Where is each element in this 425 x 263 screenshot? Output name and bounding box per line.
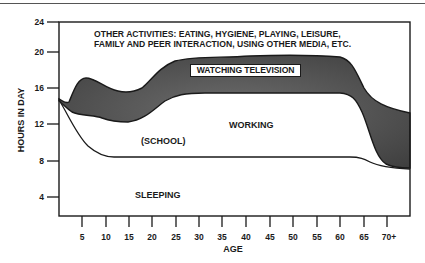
x-tick-65: 65 <box>359 232 369 242</box>
y-tick-24: 24 <box>35 17 45 27</box>
other-activities-line1: OTHER ACTIVITIES: EATING, HYGIENE, PLAYI… <box>94 29 341 39</box>
y-axis-tick-labels: 24 20 16 12 8 4 <box>35 17 45 202</box>
x-tick-60: 60 <box>335 232 345 242</box>
sleeping-label: SLEEPING <box>135 190 181 200</box>
x-tick-55: 55 <box>312 232 322 242</box>
x-tick-35: 35 <box>217 232 227 242</box>
x-axis-ticks <box>82 216 387 227</box>
y-tick-8: 8 <box>39 156 44 166</box>
y-tick-4: 4 <box>39 192 44 202</box>
x-tick-30: 30 <box>194 232 204 242</box>
y-tick-16: 16 <box>35 83 45 93</box>
school-label: (SCHOOL) <box>141 136 186 146</box>
x-tick-70-plus: 70+ <box>382 232 396 242</box>
x-tick-45: 45 <box>265 232 275 242</box>
y-axis-ticks <box>47 22 59 197</box>
x-tick-25: 25 <box>171 232 181 242</box>
chart-canvas: 24 20 16 12 8 4 HOURS IN DAY 5 10 15 20 … <box>0 0 425 263</box>
x-tick-50: 50 <box>288 232 298 242</box>
x-tick-15: 15 <box>124 232 134 242</box>
watching-television-label: WATCHING TELEVISION <box>190 64 301 77</box>
x-axis-label: AGE <box>223 244 243 254</box>
x-tick-10: 10 <box>101 232 111 242</box>
x-tick-5: 5 <box>80 232 85 242</box>
y-tick-12: 12 <box>35 119 45 129</box>
y-tick-20: 20 <box>35 47 45 57</box>
other-activities-line2: FAMILY AND PEER INTERACTION, USING OTHER… <box>94 39 351 49</box>
working-label: WORKING <box>229 120 274 130</box>
x-tick-40: 40 <box>241 232 251 242</box>
x-tick-20: 20 <box>147 232 157 242</box>
y-axis-label: HOURS IN DAY <box>16 88 26 153</box>
x-axis-tick-labels: 5 10 15 20 25 30 35 40 45 50 55 60 65 70… <box>80 232 397 242</box>
